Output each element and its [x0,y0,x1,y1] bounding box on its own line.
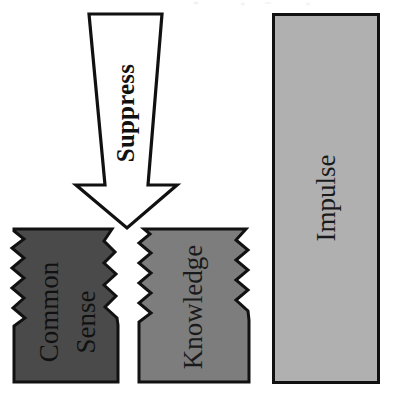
arrow-suppress: Suppress [76,14,177,228]
block-impulse-label: Impulse [311,154,341,241]
suppress-diagram: Impulse Common Sense Knowledge Suppress [0,0,393,401]
block-common-sense-label-line-2: Sense [71,290,101,353]
block-common-sense-label-line-1: Common [34,261,64,362]
block-common-sense: Common Sense [12,229,118,382]
figure-canvas: Impulse Common Sense Knowledge Suppress [0,0,393,401]
block-impulse: Impulse [274,15,379,383]
block-common-sense-shape [12,229,118,382]
block-knowledge: Knowledge [139,229,249,382]
arrow-suppress-label: Suppress [112,64,139,162]
block-knowledge-label: Knowledge [178,245,208,369]
